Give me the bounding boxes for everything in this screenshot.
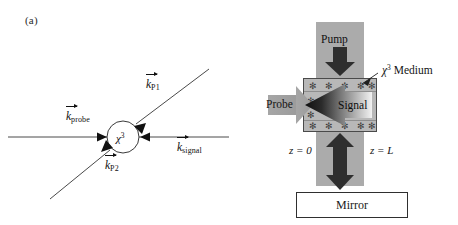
signal-label: Signal [338, 99, 367, 111]
grating-asterisk: ✻ [341, 122, 349, 131]
grating-asterisk: ✻ [307, 97, 315, 106]
figure-root: (a) (b) ✻ ✻ ✻ ✻ ✻ ✻ ✻ ✻ ✻ ✻ ✻ ✻ ✻ ✻ Mirr… [0, 0, 458, 225]
grating-asterisk: ✻ [325, 82, 333, 91]
grating-asterisk: ✻ [307, 111, 315, 120]
mirror-box: Mirror [296, 192, 408, 218]
z-start-label: z = 0 [289, 144, 312, 156]
k-probe-label: kprobe [66, 110, 90, 124]
grating-asterisk: ✻ [309, 82, 317, 91]
grating-asterisk: ✻ [341, 82, 349, 91]
k-p2-label: kP2 [105, 159, 119, 173]
pump-label: Pump [321, 33, 348, 45]
panel-a: (a) [0, 0, 229, 225]
grating-asterisk: ✻ [325, 122, 333, 131]
z-end-label: z = L [370, 144, 393, 156]
grating-asterisk: ✻ [309, 122, 317, 131]
k-signal-label: ksignal [177, 141, 202, 155]
grating-asterisk: ✻ [368, 82, 376, 91]
grating-asterisk: ✻ [326, 109, 334, 118]
panel-a-label: (a) [25, 14, 38, 26]
chi3-medium-label: χ3 Medium [382, 63, 433, 76]
grating-asterisk: ✻ [357, 82, 365, 91]
probe-label: Probe [266, 98, 293, 110]
chi3-circle-label: χ3 [116, 131, 125, 144]
grating-asterisk: ✻ [368, 122, 376, 131]
mirror-label: Mirror [336, 198, 368, 213]
grating-asterisk: ✻ [357, 122, 365, 131]
grating-line [304, 91, 376, 92]
k-p1-label: kP1 [146, 78, 160, 92]
